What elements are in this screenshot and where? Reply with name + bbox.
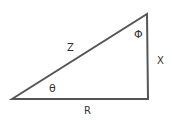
phi-angle-label: Φ [134,30,143,40]
theta-angle-label: θ [49,84,56,94]
vertical-side-label: X [157,56,164,66]
impedance-triangle-diagram: Z X R θ Φ [0,0,172,120]
hypotenuse-label: Z [67,43,74,53]
triangle-shape [0,0,172,120]
base-label: R [84,106,91,116]
